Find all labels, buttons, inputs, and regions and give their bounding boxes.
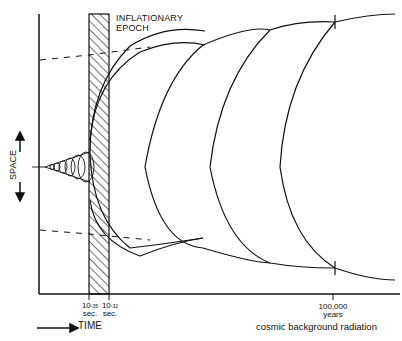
- expanding-universe-arcs: [90, 14, 395, 280]
- time-axis-label: TIME: [78, 320, 102, 331]
- title-line-1: INFLATIONARY: [116, 13, 183, 23]
- inflationary-epoch-label: INFLATIONARY EPOCH: [116, 13, 183, 33]
- tick-unit: years: [323, 310, 343, 319]
- title-line-2: EPOCH: [116, 23, 183, 33]
- pre-inflation-cone: [32, 152, 94, 182]
- tick-label-100000-years: 100,000 years: [313, 303, 353, 319]
- tick-label-1e-32: 10-32 sec.: [98, 302, 122, 318]
- tick-unit: sec.: [83, 309, 98, 318]
- inflationary-epoch-bar: [89, 14, 109, 294]
- inflation-diagram: [0, 0, 402, 341]
- cosmic-background-radiation-caption: cosmic background radiation: [256, 321, 377, 332]
- time-arrow-icon: [37, 324, 78, 332]
- space-axis-label: SPACE: [8, 145, 18, 185]
- tick-unit: sec.: [103, 309, 118, 318]
